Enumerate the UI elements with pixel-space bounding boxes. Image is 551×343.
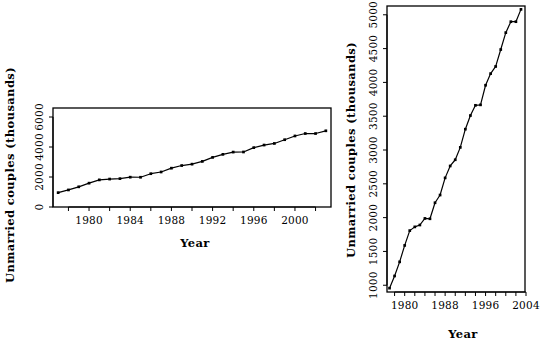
data-point (499, 48, 502, 51)
data-point (211, 156, 214, 159)
data-point (314, 132, 317, 135)
left-chart-svg: 0200040006000198019841988199219962000Yea… (0, 0, 345, 343)
y-tick-label: 4500 (367, 35, 379, 63)
data-point (98, 179, 101, 182)
x-axis-title: Year (447, 327, 478, 341)
data-point (398, 260, 401, 263)
y-tick-label: 1000 (367, 271, 379, 299)
data-point (108, 178, 111, 181)
data-point (129, 176, 132, 179)
y-tick-label: 4000 (367, 69, 379, 97)
x-tick-label: 1980 (391, 299, 419, 311)
x-tick-label: 2004 (512, 299, 540, 311)
data-point (119, 177, 122, 180)
data-series-line (390, 9, 521, 288)
data-point (504, 31, 507, 34)
data-point (439, 194, 442, 197)
y-tick-label: 5000 (367, 1, 379, 29)
data-point (263, 144, 266, 147)
y-axis-ticks: 100015002000250030003500400045005000 (367, 1, 387, 299)
data-point (464, 128, 467, 131)
data-point (444, 177, 447, 180)
data-point (273, 142, 276, 145)
y-axis-ticks: 0200040006000 (33, 103, 53, 210)
y-tick-label: 0 (33, 204, 45, 211)
data-point (413, 226, 416, 229)
data-point (232, 151, 235, 154)
y-tick-label: 1500 (367, 238, 379, 266)
y-tick-label: 2500 (367, 170, 379, 198)
data-point (408, 229, 411, 232)
figure-canvas: 0200040006000198019841988199219962000Yea… (0, 0, 551, 343)
data-point (515, 20, 518, 23)
plot-box (387, 6, 525, 292)
data-point (489, 72, 492, 75)
x-tick-label: 1984 (116, 214, 144, 226)
data-point (325, 129, 328, 132)
data-point (201, 160, 204, 163)
data-point (388, 287, 391, 290)
data-point (403, 244, 406, 247)
data-point (304, 132, 307, 135)
x-tick-label: 2000 (281, 214, 309, 226)
data-point (449, 165, 452, 168)
y-axis-title: Unmarried couples (thousands) (345, 42, 358, 258)
data-point (67, 189, 70, 192)
y-axis-title: Unmarried couples (thousands) (3, 67, 17, 283)
data-point (510, 20, 513, 23)
data-point (434, 201, 437, 204)
data-point (424, 217, 427, 220)
data-point (160, 171, 163, 174)
data-point (484, 84, 487, 87)
y-tick-label: 2000 (33, 163, 45, 191)
plot-box (53, 108, 331, 207)
x-tick-label: 1992 (199, 214, 227, 226)
data-point (88, 182, 91, 185)
x-tick-label: 1980 (75, 214, 103, 226)
x-tick-label: 1988 (431, 299, 459, 311)
data-point (242, 151, 245, 154)
x-axis-title: Year (179, 236, 210, 250)
data-point (429, 217, 432, 220)
data-points (388, 8, 522, 289)
data-point (149, 172, 152, 175)
y-tick-label: 2000 (367, 204, 379, 232)
x-axis-ticks: 198019841988199219962000 (68, 207, 315, 226)
x-tick-label: 1996 (240, 214, 268, 226)
data-point (393, 275, 396, 278)
chart-panel-left: 0200040006000198019841988199219962000Yea… (0, 0, 345, 343)
data-point (222, 153, 225, 156)
data-point (494, 65, 497, 68)
data-point (191, 163, 194, 166)
data-point (170, 167, 173, 170)
data-point (57, 191, 60, 194)
data-point (469, 114, 472, 117)
data-point (139, 176, 142, 179)
data-point (459, 146, 462, 149)
data-point (419, 224, 422, 227)
x-axis-ticks: 1980198819962004 (391, 292, 540, 311)
y-tick-label: 3000 (367, 136, 379, 164)
data-point (252, 146, 255, 149)
y-tick-label: 4000 (33, 133, 45, 161)
chart-panel-right: 1000150020002500300035004000450050001980… (345, 0, 551, 343)
right-chart-svg: 1000150020002500300035004000450050001980… (345, 0, 551, 343)
data-point (180, 164, 183, 167)
y-tick-label: 6000 (33, 103, 45, 131)
data-point (283, 138, 286, 141)
x-tick-label: 1988 (158, 214, 186, 226)
x-tick-label: 1996 (472, 299, 500, 311)
data-point (454, 158, 457, 161)
data-point (520, 8, 523, 11)
data-point (474, 104, 477, 107)
data-point (479, 104, 482, 107)
data-point (294, 135, 297, 138)
y-tick-label: 3500 (367, 102, 379, 130)
data-point (77, 185, 80, 188)
